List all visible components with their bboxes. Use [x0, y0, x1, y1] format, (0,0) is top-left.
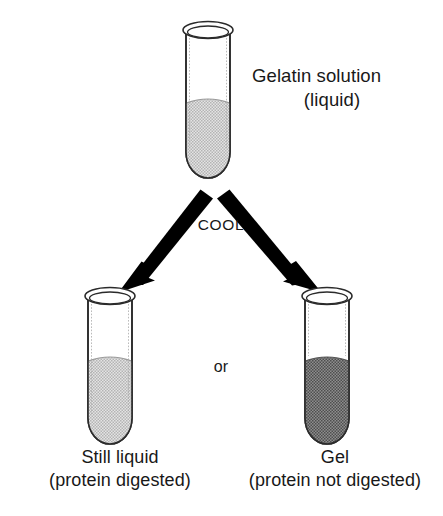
still-liquid-label: Still liquid (protein digested): [14, 446, 226, 492]
cool-arrow-right: [217, 190, 322, 293]
gel-label: Gel (protein not digested): [228, 446, 442, 492]
tube-rim-inner: [307, 292, 348, 304]
gel-label-line1: Gel: [228, 446, 442, 469]
gelatin-solution-tube: [183, 22, 233, 185]
tube-rim-inner: [188, 26, 229, 38]
gel-label-line2: (protein not digested): [228, 469, 442, 492]
still-liquid-tube: [85, 288, 135, 453]
cool-process-label: COOL: [166, 215, 276, 235]
cool-arrow-left: [119, 190, 214, 293]
gel-tube: [302, 288, 352, 453]
tube-liquid-fill: [184, 99, 232, 184]
gelatin-gel-experiment-diagram: Gelatin solution (liquid) COOL or Still …: [0, 0, 443, 516]
still-liquid-label-line2: (protein digested): [14, 469, 226, 492]
still-liquid-label-line1: Still liquid: [14, 446, 226, 469]
tube-gel-fill: [303, 357, 351, 452]
tube-rim-inner: [90, 292, 131, 304]
gelatin-solution-label-line1: Gelatin solution: [252, 65, 381, 86]
or-connector-label: or: [186, 357, 256, 377]
gelatin-solution-label-line2: (liquid): [252, 88, 412, 112]
tube-liquid-fill: [86, 357, 134, 452]
gelatin-solution-label: Gelatin solution (liquid): [252, 64, 438, 111]
